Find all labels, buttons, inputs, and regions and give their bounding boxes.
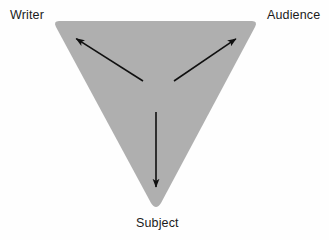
vertex-label-subject: Subject — [136, 216, 179, 230]
rhetorical-triangle-svg — [0, 0, 329, 240]
vertex-label-writer: Writer — [10, 8, 44, 22]
vertex-label-audience: Audience — [267, 8, 320, 22]
diagram-canvas: Writer Audience Subject — [0, 0, 329, 240]
